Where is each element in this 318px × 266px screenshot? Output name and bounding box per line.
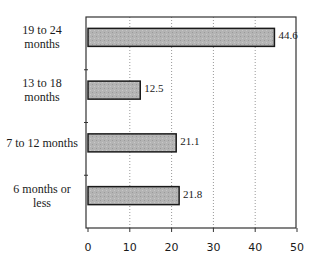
x-tick-label: 30: [201, 241, 225, 254]
bar-value-label: 12.5: [144, 82, 163, 94]
bar: [88, 134, 176, 152]
bar: [88, 187, 179, 205]
category-label: 13 to 18months: [2, 76, 82, 104]
bar-value-label: 21.1: [180, 135, 199, 147]
category-label: 6 months orless: [2, 182, 82, 210]
bar: [88, 28, 274, 46]
category-label: 19 to 24months: [2, 23, 82, 51]
bar-value-label: 21.8: [183, 188, 202, 200]
bar-value-label: 44.6: [278, 29, 297, 41]
x-tick-label: 20: [160, 241, 184, 254]
bar-chart: 0102030405044.619 to 24months12.513 to 1…: [0, 0, 318, 266]
x-tick-label: 40: [243, 241, 267, 254]
bar: [88, 81, 140, 99]
category-label: 7 to 12 months: [2, 136, 82, 150]
x-tick-label: 10: [118, 241, 142, 254]
x-tick-label: 0: [76, 241, 100, 254]
x-tick-label: 50: [285, 241, 309, 254]
